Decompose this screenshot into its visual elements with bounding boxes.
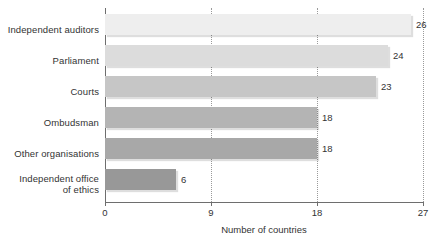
category-label-parliament: Parliament <box>0 55 99 66</box>
plot-area: 26 24 23 18 18 6 <box>105 8 423 202</box>
bar-independent-office-of-ethics <box>105 169 176 190</box>
x-tick-label-0: 0 <box>102 207 107 218</box>
bar-value-ombudsman: 18 <box>322 112 333 123</box>
category-axis-labels: Independent auditors Parliament Courts O… <box>0 8 99 202</box>
x-axis-title: Number of countries <box>105 224 423 235</box>
bar-value-independent-auditors: 26 <box>416 19 427 30</box>
category-label-courts: Courts <box>0 86 99 97</box>
x-tick-label-9: 9 <box>208 207 213 218</box>
category-label-ombudsman: Ombudsman <box>0 117 99 128</box>
category-label-independent-auditors: Independent auditors <box>0 24 99 35</box>
gridline-18 <box>317 8 318 202</box>
category-label-independent-office-of-ethics-line2: of ethics <box>0 184 99 195</box>
x-tick-0 <box>105 202 106 206</box>
x-tick-27 <box>423 202 424 206</box>
bar-parliament <box>105 45 388 66</box>
x-tick-label-27: 27 <box>418 207 429 218</box>
x-axis-line <box>105 202 423 203</box>
x-tick-label-18: 18 <box>312 207 323 218</box>
bar-value-independent-office-of-ethics: 6 <box>181 174 186 185</box>
bar-value-parliament: 24 <box>393 50 404 61</box>
bar-value-courts: 23 <box>381 81 392 92</box>
bar-independent-auditors <box>105 14 411 35</box>
bar-ombudsman <box>105 107 317 128</box>
bar-other-organisations <box>105 138 317 159</box>
x-tick-9 <box>211 202 212 206</box>
bar-chart: Independent auditors Parliament Courts O… <box>0 0 436 238</box>
category-label-other-organisations: Other organisations <box>0 148 99 159</box>
category-label-independent-office-of-ethics-line1: Independent office <box>0 173 99 184</box>
gridline-9 <box>211 8 212 202</box>
x-tick-18 <box>317 202 318 206</box>
bar-courts <box>105 76 376 97</box>
bar-value-other-organisations: 18 <box>322 143 333 154</box>
gridline-27 <box>423 8 424 202</box>
